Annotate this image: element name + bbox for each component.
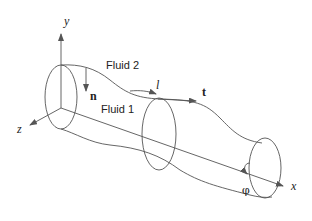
middle-cross-section — [142, 98, 176, 170]
y-axis-label: y — [64, 15, 69, 27]
fluid-2-label: Fluid 2 — [106, 60, 139, 71]
arc-length-arrow — [130, 91, 156, 94]
tube-top-contour — [61, 65, 262, 143]
tube-bottom-contour — [61, 129, 272, 197]
tube-interface-diagram: y z x Fluid 2 Fluid 1 n t l φ — [0, 0, 312, 221]
normal-vector-label: n — [90, 90, 97, 102]
x-axis-label: x — [291, 180, 296, 192]
z-axis — [30, 108, 61, 125]
diagram-drawing — [0, 0, 312, 221]
tangent-vector-arrow — [158, 99, 196, 101]
z-axis-label: z — [17, 123, 22, 135]
fluid-1-label: Fluid 1 — [101, 104, 134, 115]
arc-length-label: l — [156, 79, 159, 91]
right-cross-section — [249, 138, 281, 198]
phi-angle-label: φ — [242, 185, 250, 196]
tangent-vector-label: t — [202, 86, 206, 98]
